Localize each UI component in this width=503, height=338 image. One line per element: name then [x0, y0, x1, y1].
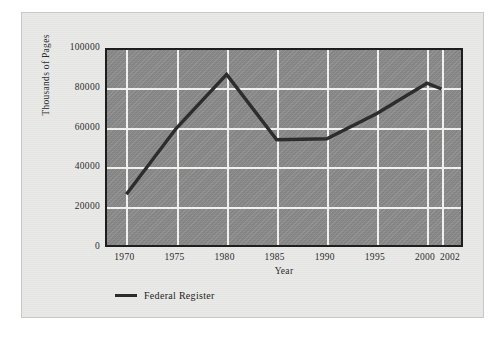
y-tick-100000: 100000: [70, 42, 100, 52]
x-tick-1975: 1975: [164, 252, 184, 262]
legend-item-label: Federal Register: [144, 290, 215, 301]
chart-figure: 100000 80000 60000 40000 20000 0 Thousan…: [21, 12, 484, 318]
x-tick-2002: 2002: [440, 252, 460, 262]
y-axis-title: Thousands of Pages: [41, 0, 51, 155]
y-tick-60000: 60000: [75, 122, 100, 132]
x-tick-1985: 1985: [265, 252, 285, 262]
x-tick-1980: 1980: [214, 252, 234, 262]
x-axis-title: Year: [105, 266, 463, 276]
y-tick-80000: 80000: [75, 82, 100, 92]
series-federal-register: [107, 50, 461, 245]
y-tick-40000: 40000: [75, 161, 100, 171]
y-tick-0: 0: [95, 241, 100, 251]
legend-line-swatch-icon: [115, 294, 137, 297]
x-tick-2000: 2000: [415, 252, 435, 262]
x-tick-1970: 1970: [114, 252, 134, 262]
y-tick-20000: 20000: [75, 201, 100, 211]
chart-legend: Federal Register: [115, 290, 215, 301]
plot-area: [105, 48, 463, 247]
x-tick-1995: 1995: [365, 252, 385, 262]
x-tick-1990: 1990: [315, 252, 335, 262]
